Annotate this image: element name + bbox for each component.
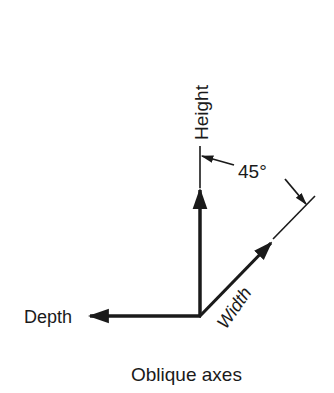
angle-label: 45° [238,161,267,182]
depth-label: Depth [24,307,72,327]
width-label: Width [213,283,256,332]
diagram-caption: Oblique axes [131,364,242,385]
width-axis [199,196,315,317]
width-extension-line [273,196,315,239]
angle-arrow-right [285,179,306,204]
oblique-axes-diagram: Height Depth Width 45° Oblique axes [0,0,334,393]
height-label: Height [191,84,212,140]
angle-arrow-left [202,156,234,165]
